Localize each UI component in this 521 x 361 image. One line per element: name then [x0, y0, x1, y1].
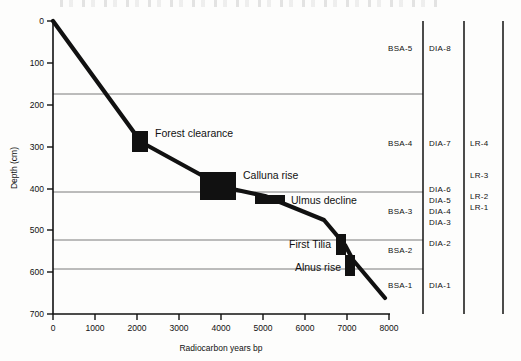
- zone-label-dia-1: DIA-1: [429, 281, 451, 290]
- x-axis-ticks: [53, 314, 389, 320]
- y-tick-label-200: 200: [30, 100, 44, 110]
- y-axis-title: Depth (cm): [9, 147, 19, 189]
- zone-label-bsa-5: BSA-5: [388, 44, 413, 53]
- event-box-ulmus-decline: [255, 195, 285, 204]
- y-tick-label-600: 600: [30, 267, 44, 277]
- x-tick-label-1000: 1000: [86, 323, 105, 333]
- zone-label-bsa-3: BSA-3: [388, 207, 413, 216]
- zone-label-dia-4: DIA-4: [429, 207, 451, 216]
- label-forest-clearance: Forest clearance: [155, 127, 233, 139]
- zone-label-dia-6: DIA-6: [429, 185, 451, 194]
- y-tick-label-400: 400: [30, 184, 44, 194]
- y-tick-label-700: 700: [30, 309, 44, 319]
- zone-label-bsa-1: BSA-1: [388, 281, 413, 290]
- label-first-tilia: First Tilia: [289, 238, 331, 250]
- zone-column-dividers: [423, 21, 503, 314]
- label-calluna-rise: Calluna rise: [243, 169, 299, 181]
- chart-figure: 0 100 200 300 400 500 600 700 0 1000 200…: [0, 0, 521, 361]
- event-box-alnus-rise: [345, 255, 355, 276]
- zone-label-lr-1: LR-1: [470, 203, 489, 212]
- event-box-calluna-rise: [200, 172, 236, 200]
- x-tick-label-3000: 3000: [170, 323, 189, 333]
- label-alnus-rise: Alnus rise: [295, 261, 341, 273]
- y-tick-label-500: 500: [30, 225, 44, 235]
- x-tick-label-6000: 6000: [296, 323, 315, 333]
- zone-label-dia-7: DIA-7: [429, 139, 451, 148]
- x-tick-label-5000: 5000: [254, 323, 273, 333]
- x-axis-title: Radiocarbon years bp: [179, 343, 262, 353]
- x-tick-label-4000: 4000: [212, 323, 231, 333]
- zone-label-dia-5: DIA-5: [429, 196, 451, 205]
- y-tick-label-0: 0: [39, 16, 44, 26]
- lr-zone-labels: LR-4 LR-3 LR-2 LR-1: [470, 139, 489, 212]
- y-axis-ticks: [47, 21, 53, 314]
- zone-label-dia-3: DIA-3: [429, 218, 451, 227]
- x-axis-tick-labels: 0 1000 2000 3000 4000 5000 6000 7000 800…: [51, 323, 399, 333]
- dia-zone-labels: DIA-8 DIA-7 DIA-6 DIA-5 DIA-4 DIA-3 DIA-…: [429, 44, 451, 290]
- x-tick-label-7000: 7000: [338, 323, 357, 333]
- zone-label-dia-8: DIA-8: [429, 44, 451, 53]
- y-tick-label-100: 100: [30, 58, 44, 68]
- bsa-zone-labels: BSA-5 BSA-4 BSA-3 BSA-2 BSA-1: [388, 44, 413, 290]
- x-tick-label-8000: 8000: [380, 323, 399, 333]
- zone-label-lr-4: LR-4: [470, 139, 489, 148]
- zone-label-bsa-2: BSA-2: [388, 246, 413, 255]
- x-tick-label-2000: 2000: [128, 323, 147, 333]
- age-depth-chart-svg: 0 100 200 300 400 500 600 700 0 1000 200…: [0, 0, 521, 361]
- y-axis-tick-labels: 0 100 200 300 400 500 600 700: [30, 16, 44, 319]
- zone-label-bsa-4: BSA-4: [388, 139, 413, 148]
- gridlines: [53, 94, 423, 269]
- label-ulmus-decline: Ulmus decline: [291, 194, 357, 206]
- y-tick-label-300: 300: [30, 142, 44, 152]
- x-tick-label-0: 0: [51, 323, 56, 333]
- zone-label-lr-3: LR-3: [470, 171, 489, 180]
- age-depth-curve: [53, 21, 385, 298]
- event-box-forest-clearance: [132, 131, 148, 152]
- zone-label-dia-2: DIA-2: [429, 239, 451, 248]
- zone-label-lr-2: LR-2: [470, 192, 489, 201]
- event-box-first-tilia: [336, 234, 346, 255]
